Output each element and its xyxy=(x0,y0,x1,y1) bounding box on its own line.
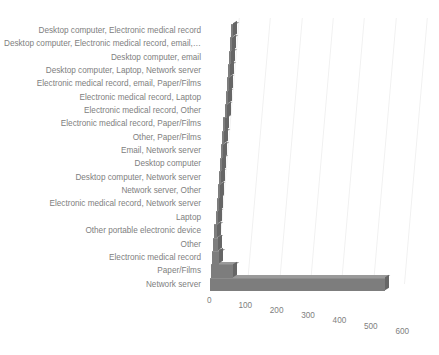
category-label: Other xyxy=(0,238,203,251)
bar-end-face xyxy=(385,275,389,290)
value-tick-label: 100 xyxy=(238,301,252,310)
category-label: Desktop computer, Laptop, Network server xyxy=(0,64,203,77)
category-label: Other portable electronic device xyxy=(0,224,203,237)
category-label: Network server, Other xyxy=(0,184,203,197)
bar xyxy=(227,77,229,91)
value-tick-label: 600 xyxy=(395,327,409,336)
category-label: Desktop computer, email xyxy=(0,51,203,64)
plot-area xyxy=(205,18,439,318)
value-tick-label: 400 xyxy=(333,316,347,325)
bar xyxy=(212,251,219,265)
value-tick-label: 200 xyxy=(270,306,284,315)
category-label: Electronic medical record, email, Paper/… xyxy=(0,77,203,90)
bar xyxy=(225,104,227,118)
bar xyxy=(229,51,231,65)
category-label: Electronic medical record, Other xyxy=(0,104,203,117)
bar xyxy=(213,238,217,252)
category-label: Electronic medical record xyxy=(0,251,203,264)
bar xyxy=(210,278,385,292)
bar xyxy=(220,158,222,172)
category-label: Network server xyxy=(0,278,203,291)
bar-end-face xyxy=(218,235,222,250)
bar-end-face xyxy=(233,261,237,276)
bar xyxy=(216,211,218,225)
category-label: Electronic medical record, Network serve… xyxy=(0,197,203,210)
category-label: Laptop xyxy=(0,211,203,224)
category-label: Desktop computer, Electronic medical rec… xyxy=(0,37,203,50)
bar xyxy=(214,224,217,238)
value-tick-label: 0 xyxy=(207,296,212,305)
bar-series xyxy=(205,18,439,318)
bar xyxy=(221,144,223,158)
bar xyxy=(222,131,224,145)
bar xyxy=(211,264,233,278)
bar xyxy=(217,198,219,212)
chart-container: Desktop computer, Electronic medical rec… xyxy=(0,0,439,355)
value-tick-label: 300 xyxy=(301,311,315,320)
value-tick-label: 500 xyxy=(364,322,378,331)
bar xyxy=(226,91,228,105)
category-label: Other, Paper/Films xyxy=(0,131,203,144)
bar xyxy=(228,64,230,78)
category-label: Email, Network server xyxy=(0,144,203,157)
category-label: Desktop computer, Network server xyxy=(0,171,203,184)
category-label: Paper/Films xyxy=(0,264,203,277)
bar xyxy=(230,37,232,51)
bar xyxy=(231,24,233,38)
bar xyxy=(218,184,220,198)
category-label: Electronic medical record, Laptop xyxy=(0,91,203,104)
bar xyxy=(223,117,225,131)
category-axis-labels: Desktop computer, Electronic medical rec… xyxy=(0,24,203,291)
category-label: Electronic medical record, Paper/Films xyxy=(0,117,203,130)
category-label: Desktop computer, Electronic medical rec… xyxy=(0,24,203,37)
category-label: Desktop computer xyxy=(0,157,203,170)
bar xyxy=(219,171,221,185)
